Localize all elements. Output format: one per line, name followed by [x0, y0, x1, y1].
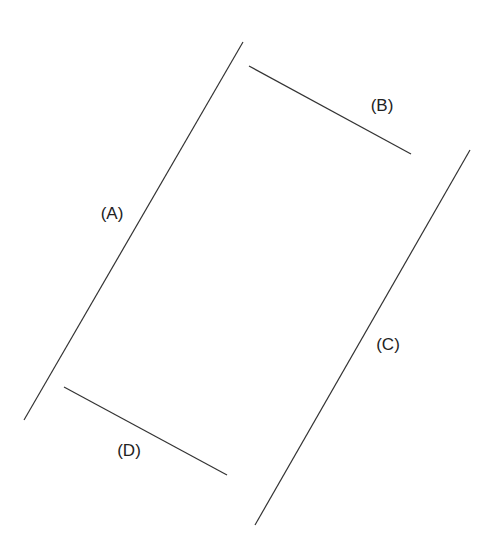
line-d	[64, 387, 227, 475]
label-d: (D)	[117, 441, 141, 460]
line-c	[255, 150, 470, 525]
label-b: (B)	[371, 96, 394, 115]
diagram-canvas: (A) (B) (C) (D)	[0, 0, 487, 538]
line-a	[24, 42, 243, 420]
label-a: (A)	[101, 204, 124, 223]
label-c: (C)	[376, 335, 400, 354]
